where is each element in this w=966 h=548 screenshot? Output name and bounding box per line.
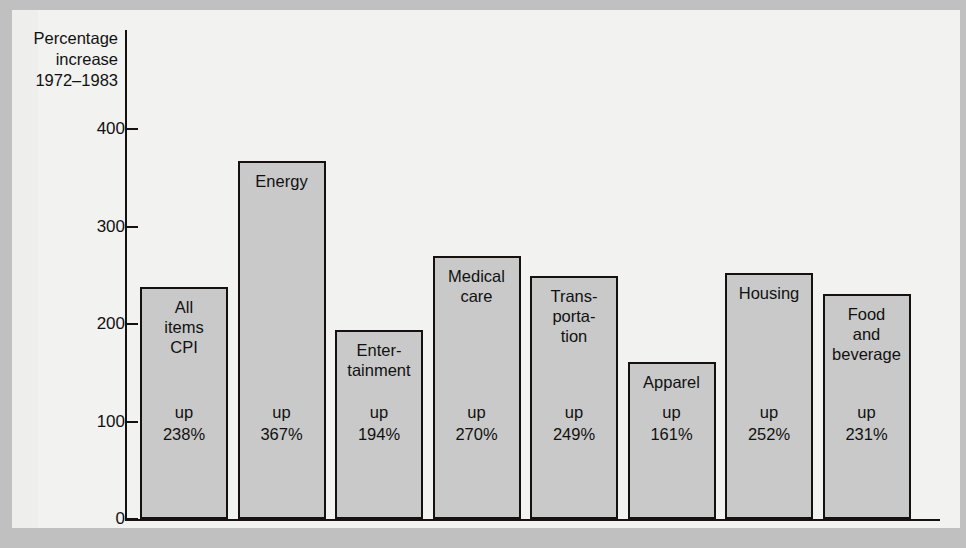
- bar[interactable]: Housingup 252%: [725, 273, 813, 519]
- bar-category-label: All items CPI: [142, 297, 226, 357]
- bar-category-label: Trans- porta- tion: [532, 286, 616, 346]
- bar-value-label: up 238%: [142, 401, 226, 445]
- y-tick-mark: [125, 323, 138, 325]
- y-axis-title: Percentage increase 1972–1983: [8, 28, 118, 91]
- bar-value-label: up 231%: [825, 401, 909, 445]
- bar-category-label: Housing: [727, 283, 811, 303]
- bar-category-label: Medical care: [435, 266, 519, 306]
- bar-chart: Percentage increase 1972–1983 0100200300…: [0, 0, 966, 548]
- bar-category-label: Energy: [240, 171, 324, 191]
- bar[interactable]: Enter- tainmentup 194%: [335, 330, 423, 519]
- bar[interactable]: Trans- porta- tionup 249%: [530, 276, 618, 519]
- bar-value-label: up 249%: [532, 401, 616, 445]
- y-tick-label: 300: [71, 218, 125, 235]
- bar-category-label: Food and beverage: [825, 304, 909, 364]
- bar[interactable]: Food and beverageup 231%: [823, 294, 911, 519]
- bar-value-label: up 270%: [435, 401, 519, 445]
- y-tick-mark: [125, 226, 138, 228]
- y-tick-label: 0: [71, 510, 125, 527]
- bar[interactable]: Medical careup 270%: [433, 256, 521, 519]
- bar[interactable]: Energyup 367%: [238, 161, 326, 519]
- y-tick-label: 400: [71, 120, 125, 137]
- bar-value-label: up 194%: [337, 401, 421, 445]
- y-tick-label: 100: [71, 413, 125, 430]
- y-tick-mark: [125, 128, 138, 130]
- y-tick-label: 200: [71, 315, 125, 332]
- bar-value-label: up 252%: [727, 401, 811, 445]
- bar-value-label: up 161%: [630, 401, 714, 445]
- y-axis-line: [125, 30, 127, 521]
- bar[interactable]: Apparelup 161%: [628, 362, 716, 519]
- bar[interactable]: All items CPIup 238%: [140, 287, 228, 519]
- y-tick-mark: [125, 518, 138, 520]
- figure-canvas: Percentage increase 1972–1983 0100200300…: [0, 0, 966, 548]
- bar-value-label: up 367%: [240, 401, 324, 445]
- bar-category-label: Apparel: [630, 372, 714, 392]
- bar-category-label: Enter- tainment: [337, 340, 421, 380]
- x-axis-line: [125, 519, 940, 521]
- y-tick-mark: [125, 421, 138, 423]
